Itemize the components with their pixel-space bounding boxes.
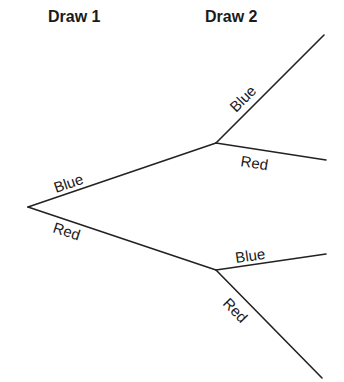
tree-diagram: Draw 1 Draw 2 Blue Red Blue Red Blue Red — [0, 0, 344, 382]
label-draw1-blue: Blue — [51, 170, 85, 196]
branch-red-blue — [216, 254, 326, 270]
label-blue-red: Red — [240, 152, 270, 173]
branch-draw1-blue — [28, 143, 216, 207]
header-draw-2: Draw 2 — [205, 8, 258, 25]
header-draw-1: Draw 1 — [48, 8, 101, 25]
branch-blue-blue — [216, 35, 324, 143]
label-red-red: Red — [220, 294, 251, 326]
label-draw1-red: Red — [51, 219, 82, 244]
branch-draw1-red — [28, 207, 216, 270]
branch-blue-red — [216, 143, 326, 160]
branch-red-red — [216, 270, 322, 378]
label-blue-blue: Blue — [226, 82, 259, 115]
